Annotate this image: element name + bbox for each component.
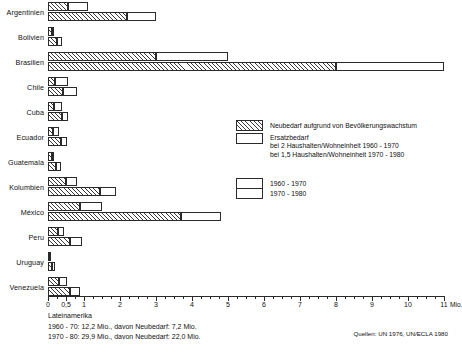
x-tick-minor	[165, 296, 166, 299]
category-label: Peru	[0, 225, 44, 250]
bar-segment-neubedarf	[48, 87, 63, 96]
bar-segment-neubedarf	[48, 52, 156, 61]
x-tick-label: 4	[190, 301, 194, 308]
bar-row: Chile	[0, 75, 456, 100]
x-tick-minor	[174, 296, 175, 299]
category-label: Ecuador	[0, 125, 44, 150]
bar-segment-neubedarf	[48, 202, 80, 211]
x-tick-minor	[435, 296, 436, 299]
x-tick-minor	[273, 296, 274, 299]
bar-segment-ersatzbedarf	[68, 2, 88, 11]
legend-entry-neubedarf: Neubedarf aufgrund von Bevölkerungswachs…	[236, 120, 451, 132]
x-tick-minor	[129, 296, 130, 299]
footer-line-1: 1960 - 70: 12,2 Mio., davon Neubedarf: 7…	[48, 322, 201, 333]
x-tick-label: 8	[334, 301, 338, 308]
legend-swatch-plain	[236, 133, 263, 144]
bar-group	[48, 225, 456, 250]
category-label: Kolumbien	[0, 175, 44, 200]
x-tick-minor	[57, 296, 58, 299]
x-tick-minor	[111, 296, 112, 299]
x-tick-minor	[237, 296, 238, 299]
bar-segment-ersatzbedarf	[80, 202, 102, 211]
bar-segment-ersatzbedarf	[61, 137, 67, 146]
x-tick-minor	[147, 296, 148, 299]
x-tick-minor	[102, 296, 103, 299]
bar-segment-ersatzbedarf	[336, 62, 444, 71]
category-label: México	[0, 200, 44, 225]
chart-legend: Neubedarf aufgrund von Bevölkerungswachs…	[236, 120, 451, 205]
x-tick-minor	[255, 296, 256, 299]
bar-segment-neubedarf	[48, 112, 62, 121]
category-label: Guatemala	[0, 150, 44, 175]
bar-row: Bolivien	[0, 25, 456, 50]
x-tick-minor	[399, 296, 400, 299]
x-tick-label: 0,5	[61, 301, 71, 308]
x-tick-minor	[282, 296, 283, 299]
x-tick-label: 11	[440, 301, 447, 308]
category-label: Chile	[0, 75, 44, 100]
footer-title: Lateinamerika	[48, 312, 201, 319]
legend-swatch-hatched	[236, 120, 263, 131]
bar-segment-ersatzbedarf	[57, 37, 62, 46]
legend-entry-ersatzbedarf: Ersatzbedarf bei 2 Haushalten/Wohneinhei…	[236, 133, 451, 165]
bar-group	[48, 250, 456, 275]
x-tick-minor	[93, 296, 94, 299]
x-tick-minor	[291, 296, 292, 299]
bar-segment-ersatzbedarf	[70, 237, 82, 246]
x-axis-unit-label: Mio.	[450, 301, 462, 308]
category-label: Cuba	[0, 100, 44, 125]
bar-segment-ersatzbedarf	[53, 127, 58, 136]
x-tick-label: 2	[118, 301, 122, 308]
x-tick-minor	[183, 296, 184, 299]
legend-label-neubedarf: Neubedarf aufgrund von Bevölkerungswachs…	[270, 122, 417, 130]
category-label: Venezuela	[0, 275, 44, 300]
bar-segment-ersatzbedarf	[156, 52, 228, 61]
legend-sub-line-1: bei 2 Haushalten/Wohneinheit 1960 - 1970	[270, 142, 399, 150]
bar-row: Argentinien	[0, 0, 456, 25]
legend-label-period-1970: 1970 - 1980	[270, 190, 306, 198]
category-label: Uruguay	[0, 250, 44, 275]
x-tick-minor	[138, 296, 139, 299]
bar-segment-neubedarf	[48, 27, 52, 36]
legend-sub-line-2: bei 1,5 Haushalten/Wohneinheit 1970 - 19…	[270, 151, 404, 159]
bar-segment-ersatzbedarf	[100, 187, 116, 196]
x-tick-label: 10	[404, 301, 412, 308]
bar-segment-neubedarf	[48, 152, 52, 161]
bar-segment-neubedarf	[48, 12, 127, 21]
bar-segment-neubedarf	[48, 177, 66, 186]
bar-segment-neubedarf	[48, 237, 70, 246]
bar-segment-neubedarf	[48, 252, 50, 261]
bar-segment-ersatzbedarf	[66, 177, 77, 186]
bar-group	[48, 25, 456, 50]
bar-segment-ersatzbedarf	[59, 277, 67, 286]
legend-period-group: 1960 - 1970 1970 - 1980	[236, 178, 451, 204]
bar-segment-neubedarf	[48, 77, 55, 86]
bar-segment-neubedarf	[48, 187, 100, 196]
bar-segment-ersatzbedarf	[55, 77, 68, 86]
bar-group	[48, 0, 456, 25]
x-tick-minor	[246, 296, 247, 299]
x-tick-minor	[210, 296, 211, 299]
x-tick-label: 5	[226, 301, 230, 308]
source-note: Quellen: UN 1976, UN/ECLA 1980	[353, 330, 448, 337]
bar-row: Peru	[0, 225, 456, 250]
bar-segment-neubedarf	[48, 2, 68, 11]
x-tick-minor	[390, 296, 391, 299]
bar-segment-ersatzbedarf	[127, 12, 156, 21]
bar-segment-ersatzbedarf	[58, 227, 64, 236]
bar-segment-neubedarf	[48, 137, 61, 146]
bar-segment-ersatzbedarf	[52, 27, 54, 36]
category-label: Argentinien	[0, 0, 44, 25]
bar-row: Uruguay	[0, 250, 456, 275]
legend-swatch-period-1970	[236, 188, 263, 199]
x-tick-minor	[309, 296, 310, 299]
category-label: Brasilien	[0, 50, 44, 75]
bar-group	[48, 50, 456, 75]
footer-annotations: Lateinamerika 1960 - 70: 12,2 Mio., davo…	[48, 312, 201, 343]
bar-segment-neubedarf	[48, 127, 53, 136]
bar-segment-ersatzbedarf	[181, 212, 221, 221]
x-tick-minor	[345, 296, 346, 299]
x-tick-label: 3	[154, 301, 158, 308]
x-tick-minor	[318, 296, 319, 299]
